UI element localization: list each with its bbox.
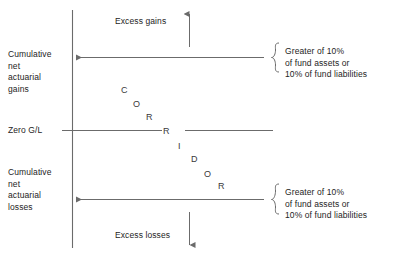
cumulative-net-actuarial-gains-label: Cumulative net actuarial gains	[8, 49, 52, 95]
corridor-letter: I	[178, 142, 181, 151]
lower-brace-icon	[272, 184, 280, 214]
upper-brace-annotation: Greater of 10% of fund assets or 10% of …	[285, 46, 367, 81]
corridor-letter: C	[121, 86, 128, 95]
corridor-diagram: Excess gains Excess losses Cumulative ne…	[0, 0, 397, 259]
corridor-letter: R	[146, 113, 153, 122]
cumulative-net-actuarial-losses-label: Cumulative net actuarial losses	[8, 167, 52, 213]
corridor-letter: R	[218, 182, 225, 191]
corridor-letter: R	[163, 127, 170, 136]
lower-brace-annotation: Greater of 10% of fund assets or 10% of …	[285, 187, 367, 222]
zero-gain-loss-label: Zero G/L	[8, 125, 42, 137]
corridor-letter: O	[204, 170, 211, 179]
excess-gains-label: Excess gains	[115, 16, 166, 28]
corridor-letter: D	[191, 155, 198, 164]
excess-losses-label: Excess losses	[115, 230, 170, 242]
corridor-letter: O	[133, 100, 140, 109]
upper-brace-icon	[272, 43, 280, 72]
